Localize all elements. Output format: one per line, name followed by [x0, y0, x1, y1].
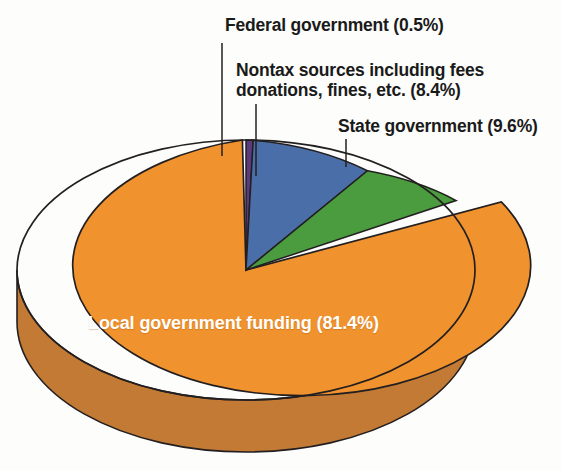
pie-chart: Federal government (0.5%) Nontax sources… [0, 0, 562, 470]
slice-label-nontax-sources: Nontax sources including fees donations,… [236, 60, 484, 101]
pie-top-face [17, 140, 531, 400]
slice-label-federal-government: Federal government (0.5%) [225, 15, 444, 35]
slice-label-nontax-line-2: donations, fines, etc. (8.4%) [236, 80, 484, 100]
slice-label-state-government: State government (9.6%) [338, 116, 538, 136]
slice-label-nontax-line-1: Nontax sources including fees [236, 60, 484, 80]
slice-label-local-government: Local government funding (81.4%) [88, 313, 379, 334]
